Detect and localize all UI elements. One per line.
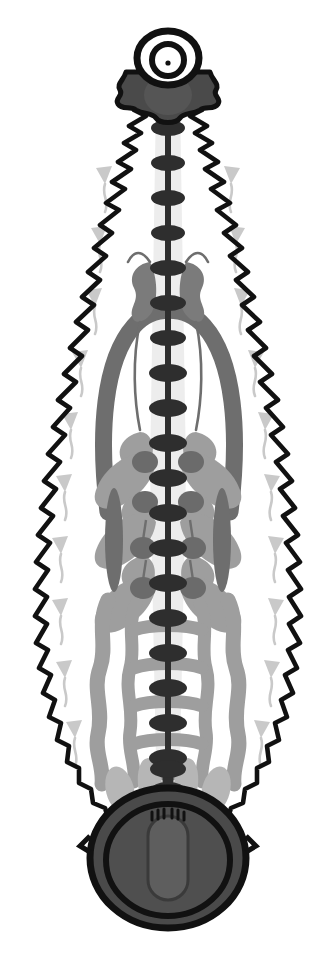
figure-canvas: Stylized bilateral organism anatomical d… <box>0 0 336 960</box>
eye-inner-ring-icon <box>152 44 184 76</box>
disc-capsule <box>148 816 188 900</box>
eye-pupil-icon <box>165 60 170 65</box>
organism-illustration <box>0 0 336 960</box>
apical-sensory-organ <box>137 31 199 85</box>
